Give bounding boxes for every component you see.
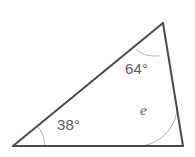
angle-arc-c (142, 106, 177, 146)
angle-label-unknown-e: e (140, 103, 147, 118)
triangle-edge-bc (163, 23, 183, 146)
angle-label-38-degrees: 38° (57, 117, 80, 132)
angle-label-64-degrees: 64° (125, 61, 148, 76)
triangle-figure: 38° 64° e (0, 0, 195, 157)
triangle-diagram-canvas (0, 0, 195, 157)
angle-arc-b (136, 50, 159, 56)
angle-arc-a (38, 127, 45, 146)
triangle-edge-ab (13, 23, 163, 146)
